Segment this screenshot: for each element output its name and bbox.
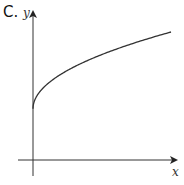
x-axis-label: x: [172, 165, 179, 179]
chart: C. x y: [0, 0, 184, 185]
y-axis-label: y: [22, 6, 30, 20]
series-line-curve: [33, 32, 171, 109]
option-label: C.: [3, 3, 18, 21]
